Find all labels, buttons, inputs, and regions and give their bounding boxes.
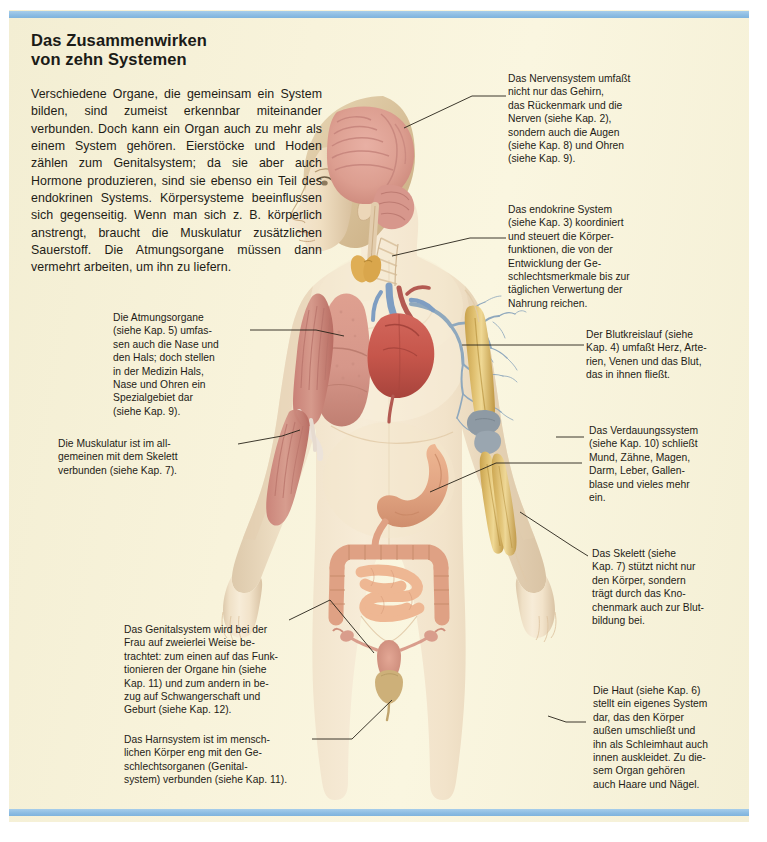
callout-endocrine-system: Das endokrine System (siehe Kap. 3) koor… bbox=[508, 203, 738, 310]
callout-line: Das Nervensystem umfaßt bbox=[508, 72, 738, 85]
callout-skeletal-system: Das Skelett (siehe Kap. 7) stützt nicht … bbox=[592, 547, 758, 627]
callout-line: den Hals; doch stellen bbox=[113, 351, 263, 364]
callout-line: Das Verdauungssystem bbox=[589, 424, 755, 437]
callout-line: Nahrung reichen. bbox=[508, 297, 738, 310]
callout-line: außen umschließt und bbox=[593, 724, 759, 737]
callout-circulatory-system: Der Blutkreislauf (siehe Kap. 4) umfaßt … bbox=[586, 328, 756, 382]
callout-genital-system: Das Genitalsystem wird bei der Frau auf … bbox=[124, 623, 334, 717]
callout-line: Das Genitalsystem wird bei der bbox=[124, 623, 334, 636]
page-title-line2: von zehn Systemen bbox=[31, 50, 361, 69]
top-rule bbox=[9, 11, 749, 18]
callout-line: verbunden (siehe Kap. 7). bbox=[58, 464, 248, 477]
callout-line: zug auf Schwangerschaft und bbox=[124, 690, 334, 703]
callout-line: innen auskleidet. Zu die- bbox=[593, 751, 759, 764]
callout-line: stellt ein eigenes System bbox=[593, 697, 759, 710]
callout-urinary-system: Das Harnsystem ist im mensch- lichen Kör… bbox=[124, 733, 339, 787]
callout-line: bildung bei. bbox=[592, 614, 758, 627]
callout-nervous-system: Das Nervensystem umfaßt nicht nur das Ge… bbox=[508, 72, 738, 166]
callout-line: sem Organ gehören bbox=[593, 764, 759, 777]
callout-line: und steuert die Körper- bbox=[508, 230, 738, 243]
callout-line: Kap. 4) umfaßt Herz, Arte- bbox=[586, 341, 756, 354]
callout-line: Frau auf zweierlei Weise be- bbox=[124, 636, 334, 649]
callout-line: schlechtsmerkmale bis zur bbox=[508, 270, 738, 283]
callout-line: täglichen Verwertung der bbox=[508, 283, 738, 296]
arm-skeleton bbox=[465, 306, 517, 556]
callout-line: chenmark auch zur Blut- bbox=[592, 601, 758, 614]
callout-line: system) verbunden (siehe Kap. 11). bbox=[124, 773, 339, 786]
callout-line: in der Medizin Hals, bbox=[113, 365, 263, 378]
callout-integumentary-system: Die Haut (siehe Kap. 6) stellt ein eigen… bbox=[593, 684, 759, 791]
callout-line: Kap. 7) stützt nicht nur bbox=[592, 560, 758, 573]
bottom-rule bbox=[9, 809, 749, 816]
callout-muscular-system: Die Muskulatur ist im all- gemeinen mit … bbox=[58, 437, 248, 477]
callout-respiratory-system: Die Atmungsorgane (siehe Kap. 5) umfas- … bbox=[113, 311, 263, 418]
callout-line: (siehe Kap. 9). bbox=[508, 152, 738, 165]
callout-line: (siehe Kap. 8) und Ohren bbox=[508, 139, 738, 152]
callout-line: auch Haare und Nägel. bbox=[593, 778, 759, 791]
callout-line: dar, das den Körper bbox=[593, 711, 759, 724]
page-title-line1: Das Zusammenwirken bbox=[31, 31, 361, 50]
callout-line: Das Skelett (siehe bbox=[592, 547, 758, 560]
callout-digestive-system: Das Verdauungssystem (siehe Kap. 10) sch… bbox=[589, 424, 755, 504]
callout-line: tionieren der Organe hin (siehe bbox=[124, 663, 334, 676]
callout-line: sen auch die Nase und bbox=[113, 338, 263, 351]
callout-line: Darm, Leber, Gallen- bbox=[589, 464, 755, 477]
callout-line: nicht nur das Gehirn, bbox=[508, 85, 738, 98]
callout-line: trägt durch das Kno- bbox=[592, 587, 758, 600]
callout-line: Die Muskulatur ist im all- bbox=[58, 437, 248, 450]
callout-line: Die Haut (siehe Kap. 6) bbox=[593, 684, 759, 697]
callout-line: funktionen, die von der bbox=[508, 243, 738, 256]
callout-line: (siehe Kap. 10) schließt bbox=[589, 437, 755, 450]
callout-line: Nase und Ohren ein bbox=[113, 378, 263, 391]
intro-paragraph: Verschiedene Organe, die gemeinsam ein S… bbox=[31, 86, 322, 277]
callout-line: das Rückenmark und die bbox=[508, 99, 738, 112]
callout-line: Das endokrine System bbox=[508, 203, 738, 216]
callout-line: lichen Körper eng mit den Ge- bbox=[124, 746, 339, 759]
callout-line: gemeinen mit dem Skelett bbox=[58, 450, 248, 463]
bladder-organ bbox=[375, 670, 403, 720]
callout-line: den Körper, sondern bbox=[592, 574, 758, 587]
callout-line: Spezialgebiet dar bbox=[113, 391, 263, 404]
callout-line: ein. bbox=[589, 491, 755, 504]
callout-line: Mund, Zähne, Magen, bbox=[589, 451, 755, 464]
callout-line: Entwicklung der Ge- bbox=[508, 257, 738, 270]
page-title: Das Zusammenwirken von zehn Systemen bbox=[31, 31, 361, 69]
callout-line: rien, Venen und das Blut, bbox=[586, 355, 756, 368]
callout-line: (siehe Kap. 5) umfas- bbox=[113, 324, 263, 337]
callout-line: trachtet: zum einen auf das Funk- bbox=[124, 650, 334, 663]
callout-line: sondern auch die Augen bbox=[508, 126, 738, 139]
callout-line: (siehe Kap. 9). bbox=[113, 405, 263, 418]
callout-line: Geburt (siehe Kap. 12). bbox=[124, 703, 334, 716]
callout-line: das in ihnen fließt. bbox=[586, 368, 756, 381]
callout-line: Der Blutkreislauf (siehe bbox=[586, 328, 756, 341]
callout-line: ihn als Schleimhaut auch bbox=[593, 738, 759, 751]
callout-line: Nerven (siehe Kap. 2), bbox=[508, 112, 738, 125]
callout-line: Die Atmungsorgane bbox=[113, 311, 263, 324]
callout-line: Das Harnsystem ist im mensch- bbox=[124, 733, 339, 746]
callout-line: blase und vieles mehr bbox=[589, 478, 755, 491]
callout-line: schlechtsorganen (Genital- bbox=[124, 760, 339, 773]
callout-line: (siehe Kap. 3) koordiniert bbox=[508, 216, 738, 229]
callout-line: Kap. 11) und zum andern in be- bbox=[124, 677, 334, 690]
anatomy-page: Das Zusammenwirken von zehn Systemen Ver… bbox=[0, 0, 767, 842]
